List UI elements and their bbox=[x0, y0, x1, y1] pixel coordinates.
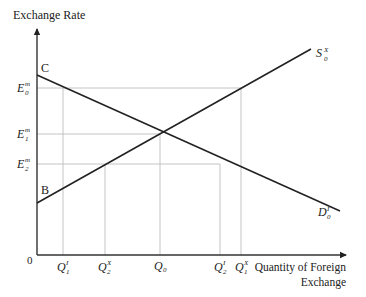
svg-text:X: X bbox=[106, 259, 112, 267]
svg-text:0: 0 bbox=[324, 55, 328, 63]
svg-text:1: 1 bbox=[244, 268, 248, 276]
svg-text:Q: Q bbox=[235, 260, 244, 274]
demand-curve-label: D I 0 bbox=[317, 205, 331, 221]
x-tick-q2i: Q I 2 bbox=[214, 259, 227, 276]
x-tick-q1x: Q X 1 bbox=[235, 259, 249, 276]
supply-curve-label: S X 0 bbox=[316, 46, 329, 63]
svg-text:E: E bbox=[16, 81, 25, 95]
x-tick-q1i: Q I 1 bbox=[57, 259, 70, 276]
svg-text:X: X bbox=[243, 259, 249, 267]
origin-label: 0 bbox=[27, 254, 33, 266]
svg-text:S: S bbox=[316, 46, 322, 60]
point-c-label: C bbox=[41, 61, 49, 75]
svg-text:Q: Q bbox=[154, 259, 163, 273]
svg-text:Q: Q bbox=[98, 260, 107, 274]
svg-text:m: m bbox=[25, 80, 30, 88]
x-tick-q0: Q 0 bbox=[154, 259, 167, 274]
x-axis-label-line1: Quantity of Foreign bbox=[255, 261, 347, 274]
svg-text:Q: Q bbox=[57, 260, 66, 274]
point-b-label: B bbox=[41, 183, 49, 197]
y-tick-e1: E m 1 bbox=[16, 126, 30, 143]
svg-text:0: 0 bbox=[327, 213, 331, 221]
svg-text:I: I bbox=[222, 259, 226, 267]
svg-text:0: 0 bbox=[163, 266, 167, 274]
x-axis-label-line2: Exchange bbox=[301, 276, 346, 289]
svg-text:1: 1 bbox=[25, 135, 29, 143]
svg-text:m: m bbox=[25, 126, 30, 134]
exchange-rate-diagram: Exchange Rate Quantity of Foreign Exchan… bbox=[0, 0, 366, 297]
svg-text:2: 2 bbox=[107, 268, 111, 276]
y-axis-label: Exchange Rate bbox=[13, 8, 85, 22]
svg-text:X: X bbox=[323, 46, 329, 54]
svg-text:E: E bbox=[16, 127, 25, 141]
svg-text:Q: Q bbox=[214, 260, 223, 274]
svg-text:2: 2 bbox=[223, 268, 227, 276]
demand-curve bbox=[37, 75, 340, 211]
y-tick-e2: E m 2 bbox=[16, 156, 30, 173]
svg-text:m: m bbox=[25, 156, 30, 164]
svg-text:D: D bbox=[317, 205, 327, 219]
svg-text:I: I bbox=[65, 259, 69, 267]
svg-text:2: 2 bbox=[25, 165, 29, 173]
svg-text:0: 0 bbox=[25, 89, 29, 97]
svg-text:1: 1 bbox=[66, 268, 70, 276]
svg-text:E: E bbox=[16, 157, 25, 171]
y-tick-e0: E m 0 bbox=[16, 80, 30, 97]
x-tick-q2x: Q X 2 bbox=[98, 259, 112, 276]
